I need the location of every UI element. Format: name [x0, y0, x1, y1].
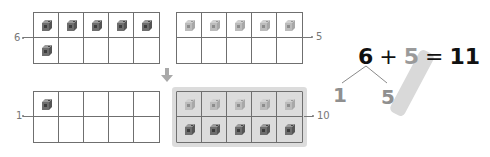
cell	[134, 92, 159, 117]
cube-dark-icon	[40, 98, 53, 111]
cell	[134, 38, 159, 63]
cell	[84, 92, 109, 117]
cell	[84, 117, 109, 142]
cube-dark-icon	[283, 123, 296, 136]
decomposition-part-2: 5	[381, 85, 395, 109]
cell	[34, 92, 59, 117]
label-dot	[311, 36, 313, 38]
ten-frame-top-left	[33, 12, 160, 64]
equation-equals: =	[419, 44, 449, 69]
cube-light-icon	[183, 98, 196, 111]
ten-frame-bottom-right	[176, 91, 303, 143]
equation-addend-1: 6	[358, 44, 373, 69]
label-top-left: 6	[14, 33, 20, 43]
cube-light-icon	[183, 19, 196, 32]
label-bottom-right: 10	[317, 111, 330, 121]
cell	[202, 38, 227, 63]
cube-dark-icon	[183, 123, 196, 136]
arrow-down-icon	[161, 68, 173, 87]
cube-dark-icon	[90, 19, 103, 32]
cell	[59, 92, 84, 117]
cell	[277, 92, 302, 117]
cell	[177, 117, 202, 142]
cube-dark-icon	[140, 19, 153, 32]
cube-dark-icon	[40, 44, 53, 57]
cube-light-icon	[208, 19, 221, 32]
decomposition-part-1: 1	[333, 83, 347, 107]
cube-light-icon	[233, 98, 246, 111]
cube-light-icon	[283, 98, 296, 111]
cube-light-icon	[258, 98, 271, 111]
cube-dark-icon	[208, 123, 221, 136]
cell	[134, 13, 159, 38]
ten-frame-top-right	[176, 12, 303, 64]
cell	[177, 92, 202, 117]
cell	[227, 38, 252, 63]
cell	[277, 38, 302, 63]
equation-result: 11	[450, 44, 481, 69]
cell	[59, 13, 84, 38]
cube-dark-icon	[40, 19, 53, 32]
cell	[84, 38, 109, 63]
cell	[59, 117, 84, 142]
cell	[109, 92, 134, 117]
cell	[277, 117, 302, 142]
cell	[59, 38, 84, 63]
cube-light-icon	[233, 19, 246, 32]
cell	[227, 13, 252, 38]
cube-dark-icon	[258, 123, 271, 136]
cell	[109, 117, 134, 142]
cell	[252, 13, 277, 38]
cell	[277, 13, 302, 38]
cube-dark-icon	[233, 123, 246, 136]
label-leader-line	[23, 116, 33, 117]
equation: 6+5=11	[358, 44, 480, 69]
label-dot	[312, 115, 314, 117]
cell	[134, 117, 159, 142]
label-leader-line	[23, 37, 33, 38]
cube-dark-icon	[65, 19, 78, 32]
equation-addend-2: 5	[404, 44, 419, 69]
cell	[227, 92, 252, 117]
cell	[252, 117, 277, 142]
cell	[177, 38, 202, 63]
cube-light-icon	[283, 19, 296, 32]
cell	[34, 117, 59, 142]
cell	[252, 92, 277, 117]
ten-frame-bottom-left	[33, 91, 160, 143]
cell	[202, 13, 227, 38]
cell	[109, 13, 134, 38]
cell	[84, 13, 109, 38]
cube-dark-icon	[115, 19, 128, 32]
cell	[34, 13, 59, 38]
cell	[227, 117, 252, 142]
cell	[252, 38, 277, 63]
cell	[202, 92, 227, 117]
cell	[109, 38, 134, 63]
equation-plus: +	[373, 44, 403, 69]
cell	[177, 13, 202, 38]
cube-light-icon	[258, 19, 271, 32]
label-top-right: 5	[316, 32, 322, 42]
cube-light-icon	[208, 98, 221, 111]
cell	[202, 117, 227, 142]
cell	[34, 38, 59, 63]
